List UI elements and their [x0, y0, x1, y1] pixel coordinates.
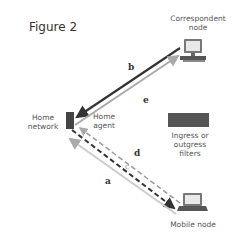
- filters-legend-label: Ingress or outgress filters: [166, 131, 214, 158]
- path-a-line: [70, 139, 176, 214]
- home-router-icon: [66, 112, 74, 129]
- laptop-icon: [177, 193, 208, 211]
- correspondent-node-label: Correspondent node: [168, 14, 228, 32]
- path-d-label: d: [134, 148, 140, 158]
- desktop-computer-icon: [180, 39, 206, 62]
- path-b-line: [77, 48, 180, 117]
- path-c-line: [72, 130, 174, 208]
- path-d-line: [80, 128, 180, 203]
- path-a-label: a: [105, 176, 111, 186]
- path-b-label: b: [128, 62, 134, 72]
- filter-swatch-icon: [168, 113, 209, 127]
- home-agent-label: Home agent: [90, 112, 118, 130]
- home-network-label: Home network: [26, 113, 60, 131]
- path-e-label: e: [143, 95, 149, 105]
- path-c-label: c: [125, 162, 129, 171]
- mobile-node-label: Mobile node: [168, 220, 218, 229]
